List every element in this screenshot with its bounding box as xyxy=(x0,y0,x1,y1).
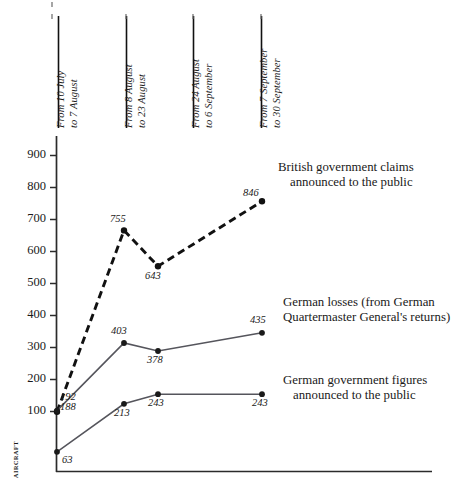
period-4-to: to 30 September xyxy=(272,58,283,128)
annotation-german-figures-line2: announced to the public xyxy=(283,388,427,403)
annotation-german-losses-line2: Quartermaster General's returns) xyxy=(283,310,450,325)
annotation-british-line2: announced to the public xyxy=(278,175,414,190)
y-tick-700: 700 xyxy=(16,212,46,225)
annotation-british-line1: British government claims xyxy=(278,160,414,174)
point-label-german-losses-3: 378 xyxy=(147,355,163,366)
period-3-from: From 24 August xyxy=(191,59,202,128)
annotation-british-claims: British government claims announced to t… xyxy=(278,160,414,190)
annotation-german-losses: German losses (from German Quartermaster… xyxy=(283,295,450,325)
y-tick-500: 500 xyxy=(16,276,46,289)
chart-plot-area xyxy=(0,0,460,498)
period-2-from: From 8 August xyxy=(124,64,135,128)
period-1-to: to 7 August xyxy=(69,79,80,128)
y-axis-title: AIRCRAFT xyxy=(12,441,19,478)
point-label-german-figures-2: 213 xyxy=(114,408,130,419)
period-3-to: to 6 September xyxy=(204,64,215,128)
y-tick-200: 200 xyxy=(16,372,46,385)
y-tick-900: 900 xyxy=(16,148,46,161)
y-tick-600: 600 xyxy=(16,244,46,257)
chart-container: From 10 July to 7 August From 8 August t… xyxy=(0,0,460,498)
point-label-british-4: 846 xyxy=(243,188,259,199)
point-label-german-figures-3: 243 xyxy=(148,398,164,409)
annotation-german-losses-line1: German losses (from German xyxy=(283,295,435,309)
period-2-to: to 23 August xyxy=(137,74,148,128)
point-label-german-figures-4: 243 xyxy=(252,398,268,409)
period-divider-rules xyxy=(59,16,262,128)
y-tick-400: 400 xyxy=(16,308,46,321)
point-label-german-losses-1: 192 xyxy=(60,392,76,403)
y-tick-800: 800 xyxy=(16,180,46,193)
point-label-german-losses-2: 403 xyxy=(111,326,127,337)
y-tick-100: 100 xyxy=(16,404,46,417)
period-1-from: From 10 July xyxy=(56,71,67,128)
point-label-german-losses-4: 435 xyxy=(250,315,266,326)
period-4-from: From 7 September xyxy=(259,49,270,128)
point-label-british-2: 755 xyxy=(110,214,126,225)
y-tick-300: 300 xyxy=(16,340,46,353)
annotation-german-figures: German government figures announced to t… xyxy=(283,373,427,403)
top-tick-marks xyxy=(52,2,261,19)
point-label-german-figures-1: 63 xyxy=(62,455,73,466)
annotation-german-figures-line1: German government figures xyxy=(283,373,427,387)
point-label-british-3: 643 xyxy=(145,271,161,282)
point-label-british-1: 188 xyxy=(60,402,76,413)
